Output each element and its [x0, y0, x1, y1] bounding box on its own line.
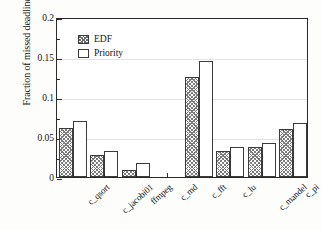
x-axis-label-c_qsort: c_qsort	[85, 182, 111, 207]
y-axis-minor-tick	[57, 39, 60, 40]
chart-legend: EDF Priority	[78, 35, 123, 62]
bar-c_pi-priority	[293, 123, 307, 177]
bar-c_fft-priority	[199, 61, 213, 177]
y-axis-tick-label: 0.2	[42, 14, 54, 24]
y-axis-tick	[57, 19, 62, 20]
legend-label-edf: EDF	[94, 35, 112, 45]
x-axis-label-c_pi: c_pi	[303, 182, 321, 200]
bar-c_qsort-priority	[73, 121, 87, 177]
x-axis-tick	[199, 173, 200, 177]
legend-entry-edf: EDF	[78, 35, 123, 45]
bar-c_lu-priority	[230, 147, 244, 177]
legend-swatch-priority-icon	[78, 49, 89, 58]
x-axis-tick	[73, 173, 74, 177]
y-axis-minor-tick	[57, 119, 60, 120]
gridline	[57, 139, 307, 140]
x-axis-tick	[136, 173, 137, 177]
bar-c_mandel-edf	[248, 147, 262, 177]
y-axis-tick-label: 0.1	[42, 94, 54, 104]
y-axis-minor-tick	[57, 79, 60, 80]
bar-c_jacobi01-edf	[90, 155, 104, 177]
y-axis-tick-label: 0	[49, 174, 54, 184]
bar-c_qsort-edf	[59, 128, 73, 177]
x-axis-tick	[262, 173, 263, 177]
y-axis-tick-label: 0.15	[37, 54, 54, 64]
y-axis-tick	[57, 59, 62, 60]
x-axis-label-c_lu: c_lu	[240, 182, 258, 200]
x-axis-tick	[167, 173, 168, 177]
x-axis-tick	[293, 173, 294, 177]
x-axis-label-c_md: c_md	[178, 182, 199, 203]
legend-label-priority: Priority	[94, 49, 123, 59]
y-axis-tick	[57, 179, 62, 180]
legend-swatch-edf-icon	[78, 35, 89, 44]
y-axis-title: Fraction of missed deadlines	[21, 0, 32, 130]
gridline	[57, 99, 307, 100]
y-axis-tick-label: 0.05	[37, 134, 54, 144]
bar-c_lu-edf	[216, 151, 230, 177]
bar-c_mandel-priority	[262, 143, 276, 177]
legend-entry-priority: Priority	[78, 49, 123, 59]
bar-ffmpeg-priority	[136, 163, 150, 177]
bar-c_jacobi01-priority	[104, 151, 118, 177]
x-axis-tick	[230, 173, 231, 177]
x-axis-label-c_fft: c_fft	[209, 182, 228, 200]
x-axis-tick	[104, 173, 105, 177]
bar-c_fft-edf	[185, 77, 199, 177]
bar-c_pi-edf	[279, 129, 293, 177]
bar-chart-figure: Fraction of missed deadlines 00.050.10.1…	[0, 0, 322, 230]
bar-ffmpeg-edf	[122, 170, 136, 177]
y-axis-tick	[57, 99, 62, 100]
x-axis-label-c_mandel: c_mandel	[277, 182, 309, 212]
